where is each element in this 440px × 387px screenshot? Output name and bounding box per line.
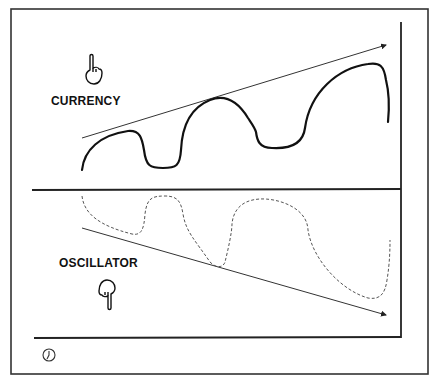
divider-line (32, 189, 401, 190)
bottom-axis-line (34, 337, 401, 338)
oscillator-curve (82, 196, 390, 298)
oscillator-trend-arrow (82, 228, 386, 315)
divergence-diagram (0, 0, 440, 387)
clock-icon (43, 349, 55, 361)
currency-trend-arrow (82, 45, 386, 138)
hand-pointing-up-icon (86, 55, 102, 85)
hand-pointing-down-icon (99, 280, 115, 310)
oscillator-label: OSCILLATOR (59, 256, 138, 270)
currency-label: CURRENCY (51, 94, 121, 108)
currency-price-curve (82, 64, 389, 170)
